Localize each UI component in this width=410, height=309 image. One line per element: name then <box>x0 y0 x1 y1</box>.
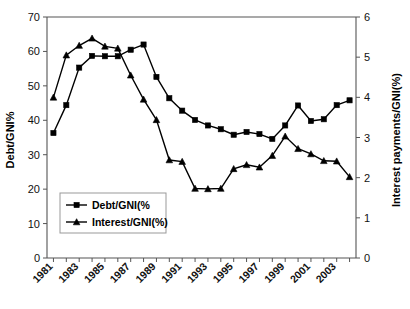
data-point-square <box>231 132 236 137</box>
data-point-triangle <box>127 72 134 78</box>
data-point-square <box>102 54 107 59</box>
chart-container: 010203040506070 0123456 1981198319851987… <box>0 0 410 309</box>
y-axis-left-tick-label: 30 <box>28 149 40 161</box>
data-point-square <box>257 131 262 136</box>
data-point-triangle <box>89 35 96 41</box>
data-point-triangle <box>76 42 83 48</box>
data-point-square <box>321 117 326 122</box>
y-axis-right-title: Interest payments/GNI(%) <box>390 73 402 207</box>
y-axis-left-title: Debt/GNI% <box>4 111 16 168</box>
y-axis-right-tick-label: 5 <box>364 51 370 63</box>
y-axis-right-tick-label: 6 <box>364 11 370 23</box>
legend-label-0: Debt/GNI(% <box>92 199 150 211</box>
x-axis-tick-label: 1985 <box>81 260 106 285</box>
y-axis-right-tick-label: 2 <box>364 172 370 184</box>
x-axis-tick-label: 1997 <box>236 260 261 285</box>
data-point-square <box>218 127 223 132</box>
data-point-triangle <box>282 133 289 139</box>
line-chart: 010203040506070 0123456 1981198319851987… <box>0 0 410 309</box>
data-point-square <box>89 53 94 58</box>
y-axis-right-tick-label: 0 <box>364 252 370 264</box>
data-point-square <box>205 123 210 128</box>
x-axis-tick-label: 1989 <box>133 260 158 285</box>
y-axis-right-tick-label: 4 <box>364 91 370 103</box>
series-line-0 <box>53 45 349 139</box>
x-axis-tick-label: 2001 <box>287 260 312 285</box>
y-axis-left-tick-label: 40 <box>28 114 40 126</box>
y-axis-right-tick-label: 1 <box>364 212 370 224</box>
y-axis-right: 0123456 <box>356 11 370 264</box>
x-axis-tick-label: 2003 <box>313 260 338 285</box>
data-point-square <box>347 98 352 103</box>
y-axis-left-tick-label: 50 <box>28 80 40 92</box>
data-point-square <box>115 54 120 59</box>
data-point-square <box>283 123 288 128</box>
data-point-square <box>154 74 159 79</box>
legend-marker-square <box>74 202 79 207</box>
x-axis-tick-label: 1991 <box>159 260 184 285</box>
data-point-triangle <box>50 94 57 100</box>
data-point-square <box>77 65 82 70</box>
data-point-square <box>51 130 56 135</box>
data-point-square <box>141 42 146 47</box>
chart-legend: Debt/GNI(%Interest/GNI(%) <box>60 193 168 233</box>
x-axis-tick-label: 1995 <box>210 260 235 285</box>
y-axis-left-tick-label: 10 <box>28 218 40 230</box>
y-axis-left-tick-label: 0 <box>34 252 40 264</box>
data-point-square <box>180 108 185 113</box>
x-axis: 1981198319851987198919911993199519971999… <box>30 258 356 285</box>
y-axis-right-tick-label: 3 <box>364 132 370 144</box>
legend-label-1: Interest/GNI(%) <box>92 216 168 228</box>
x-axis-tick-label: 1987 <box>107 260 132 285</box>
data-point-square <box>334 103 339 108</box>
data-point-triangle <box>140 96 147 102</box>
x-axis-tick-label: 1993 <box>184 260 209 285</box>
data-point-square <box>270 136 275 141</box>
x-axis-tick-label: 1999 <box>262 260 287 285</box>
y-axis-left-tick-label: 60 <box>28 45 40 57</box>
data-point-square <box>308 118 313 123</box>
data-point-square <box>192 117 197 122</box>
data-point-square <box>167 96 172 101</box>
y-axis-left-tick-label: 20 <box>28 183 40 195</box>
data-point-square <box>64 103 69 108</box>
data-point-square <box>295 103 300 108</box>
data-point-square <box>244 129 249 134</box>
data-point-square <box>128 47 133 52</box>
y-axis-left: 010203040506070 <box>28 11 47 264</box>
x-axis-tick-label: 1983 <box>56 260 81 285</box>
y-axis-left-tick-label: 70 <box>28 11 40 23</box>
data-series <box>50 35 353 192</box>
